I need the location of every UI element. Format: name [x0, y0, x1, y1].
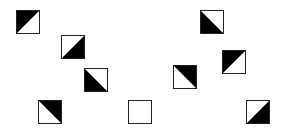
- diagonal-tile-bottom-left: [200, 10, 224, 34]
- half-triangle-icon: [85, 69, 107, 91]
- half-triangle-icon: [223, 51, 245, 73]
- diagonal-tile-none: [128, 100, 152, 124]
- half-triangle-icon: [62, 36, 84, 58]
- diagonal-tile-top-left: [222, 50, 246, 74]
- half-triangle-icon: [201, 11, 223, 33]
- diagonal-tile-top-left: [16, 10, 40, 34]
- diagonal-tile-top-right: [173, 65, 197, 89]
- diagonal-tile-bottom-right: [61, 35, 85, 59]
- diagonal-tile-bottom-left: [84, 68, 108, 92]
- half-triangle-icon: [39, 101, 61, 123]
- diagonal-tile-top-right: [38, 100, 62, 124]
- half-triangle-icon: [247, 101, 269, 123]
- diagonal-tile-bottom-right: [246, 100, 270, 124]
- half-triangle-icon: [174, 66, 196, 88]
- half-triangle-icon: [17, 11, 39, 33]
